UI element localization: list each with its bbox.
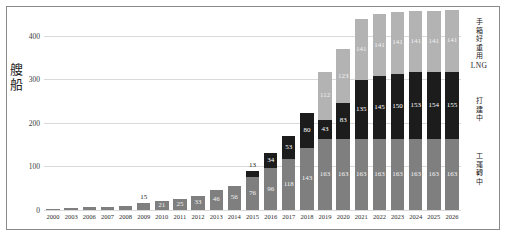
bar-segment-planned: 141	[373, 14, 386, 75]
bar-segment-operating	[119, 206, 132, 210]
bar-value-label: 154	[429, 102, 440, 109]
legend-building-char: 中	[466, 114, 492, 123]
bar-column[interactable]	[46, 209, 59, 210]
bar-value-label: 163	[410, 171, 421, 178]
bar-segment-building: 83	[336, 103, 349, 139]
x-axis-tick-label: 2023	[388, 213, 406, 220]
bar-value-label: 123	[338, 73, 349, 80]
bar-column[interactable]: 141135163	[355, 19, 368, 210]
bar-segment-operating: 163	[336, 139, 349, 210]
legend-building-char: 建	[466, 106, 492, 115]
bar-column[interactable]: 141153163	[409, 11, 422, 210]
bar-segment-operating: 163	[427, 139, 440, 210]
legend-item-building: 打建中	[466, 97, 492, 123]
x-axis-tick-label: 2024	[407, 213, 425, 220]
bar-column[interactable]: 53118	[282, 136, 295, 210]
bar-column[interactable]: 46	[210, 190, 223, 210]
bar-segment-operating: 15	[137, 203, 150, 210]
bar-value-label: 141	[392, 39, 403, 46]
bar-segment-operating: 118	[282, 159, 295, 210]
bar-column[interactable]: 25	[173, 199, 186, 210]
bar-value-label: 163	[356, 171, 367, 178]
bar-column[interactable]: 33	[191, 196, 204, 210]
bar-segment-building: 135	[355, 80, 368, 139]
bar-value-label: 25	[176, 201, 183, 208]
bar-column[interactable]: 141155163	[445, 10, 458, 210]
plot-area: 0100200300400200020032006200720081520092…	[44, 14, 461, 211]
bar-column[interactable]: 56	[228, 186, 241, 210]
bar-column[interactable]	[119, 206, 132, 210]
bar-segment-operating: 163	[409, 139, 422, 210]
x-axis-tick-label: 2007	[98, 213, 116, 220]
bar-segment-operating: 96	[264, 168, 277, 210]
bar-column[interactable]: 12383163	[336, 49, 349, 210]
bar-column[interactable]: 21	[155, 201, 168, 210]
bar-value-label: 141	[356, 46, 367, 53]
bar-column[interactable]	[101, 207, 114, 210]
bar-column[interactable]: 80143	[300, 113, 313, 210]
bar-column[interactable]: 11243163	[318, 72, 331, 210]
bar-value-label: 163	[447, 171, 458, 178]
x-axis-tick-label: 2003	[62, 213, 80, 220]
bar-value-label: 145	[374, 104, 385, 111]
bar-value-label: 76	[249, 190, 256, 197]
bar-column[interactable]: 141150163	[391, 12, 404, 210]
x-axis-tick-label: 2014	[225, 213, 243, 220]
bar-column[interactable]: 141145163	[373, 14, 386, 210]
bar-value-label: 112	[320, 92, 330, 99]
y-axis-title-char: 艘	[7, 62, 25, 77]
bar-value-label: 21	[158, 202, 165, 209]
bar-segment-operating	[64, 208, 77, 210]
bar-segment-planned: 141	[391, 12, 404, 73]
legend-planned-char: 箱	[466, 27, 492, 36]
x-axis-tick-label: 2018	[298, 213, 316, 220]
bar-segment-operating: 56	[228, 186, 241, 210]
bar-column[interactable]: 141154163	[427, 11, 440, 210]
bar-segment-building: 145	[373, 76, 386, 139]
bar-segment-operating	[83, 207, 96, 210]
y-axis-title-char: 船	[7, 77, 25, 92]
legend-operating-char: 工	[466, 152, 492, 161]
bar-value-label: 33	[195, 199, 202, 206]
bar-column[interactable]: 15	[137, 203, 150, 210]
legend-planned-char: 重	[466, 44, 492, 53]
bar-value-label: 53	[285, 144, 292, 151]
bar-value-label: 150	[392, 103, 403, 110]
bar-column[interactable]	[64, 208, 77, 210]
legend-operating-cjk: 工運轉中	[466, 152, 492, 186]
bar-value-label: 155	[447, 102, 458, 109]
legend-building-cjk: 打建中	[466, 97, 492, 123]
bar-value-label: 15	[140, 194, 147, 201]
legend-operating-char: 中	[466, 178, 492, 187]
x-axis-tick-label: 2017	[280, 213, 298, 220]
legend-item-operating: 工運轉中	[466, 152, 492, 186]
bar-segment-operating: 163	[391, 139, 404, 210]
bar-segment-operating: 163	[355, 139, 368, 210]
bar-value-label: 34	[267, 157, 274, 164]
bar-value-label: 163	[392, 171, 403, 178]
x-axis-tick-label: 2009	[135, 213, 153, 220]
bar-segment-operating: 25	[173, 199, 186, 210]
x-axis-tick-label: 2015	[243, 213, 261, 220]
bar-value-label: 80	[303, 127, 310, 134]
bar-value-label: 13	[249, 162, 256, 169]
x-axis-tick-label: 2012	[189, 213, 207, 220]
legend-building-char: 打	[466, 97, 492, 106]
bar-segment-planned: 112	[318, 72, 331, 121]
bar-column[interactable]: 3496	[264, 153, 277, 210]
bar-value-label: 141	[410, 38, 421, 45]
bar-value-label: 163	[338, 171, 349, 178]
legend-planned-char: 用	[466, 52, 492, 61]
bar-column[interactable]	[83, 207, 96, 210]
bar-column[interactable]: 1376	[246, 171, 259, 210]
bar-segment-building: 43	[318, 120, 331, 139]
grid-line: 0	[44, 210, 461, 211]
bar-value-label: 83	[340, 117, 347, 124]
y-axis-title: 艘船	[7, 62, 25, 92]
legend-planned-char: 手	[466, 18, 492, 27]
bar-value-label: 163	[429, 171, 440, 178]
x-axis-tick-label: 2026	[443, 213, 461, 220]
bar-segment-operating: 163	[318, 139, 331, 210]
bar-value-label: 46	[213, 196, 220, 203]
y-axis-tick-label: 400	[29, 31, 40, 40]
